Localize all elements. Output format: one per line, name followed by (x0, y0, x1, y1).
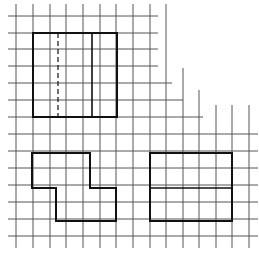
grid-lines (8, 4, 258, 248)
right-rectangle (150, 153, 232, 221)
shapes (32, 33, 232, 221)
grid-diagram (0, 0, 259, 253)
top-rectangle (33, 33, 117, 117)
l-shape (32, 153, 116, 221)
